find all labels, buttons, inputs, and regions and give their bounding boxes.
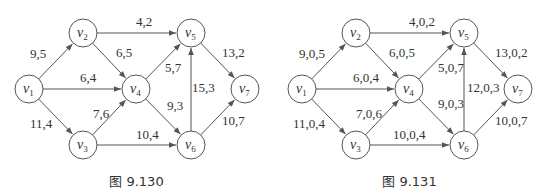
edge-label: 7,6 xyxy=(93,106,110,121)
edge-label: 13,0,2 xyxy=(495,45,528,60)
node-v1: v1 xyxy=(15,75,43,103)
edge-v1-v3: 11,0,4 xyxy=(293,99,346,134)
figure-9-131: 9,0,56,0,411,0,44,0,26,0,57,0,610,0,45,0… xyxy=(273,0,546,194)
edge-label: 5,7 xyxy=(165,60,182,75)
edge-label: 9,5 xyxy=(30,46,46,61)
graph-9-130: 9,56,411,44,26,57,610,45,79,315,313,210,… xyxy=(0,0,273,170)
edge-v1-v2: 9,5 xyxy=(30,44,73,79)
edge-label: 13,2 xyxy=(222,45,245,60)
edge-label: 7,0,6 xyxy=(356,106,383,121)
node-v6: v6 xyxy=(450,131,478,159)
node-v5: v5 xyxy=(177,19,205,47)
edge-v3-v6: 10,0,4 xyxy=(370,127,449,145)
edge-v4-v5: 5,7 xyxy=(146,44,182,79)
figure-9-130: 9,56,411,44,26,57,610,45,79,315,313,210,… xyxy=(0,0,273,194)
edge-label: 9,0,5 xyxy=(299,46,325,61)
node-v5: v5 xyxy=(450,19,478,47)
edge-label: 5,0,7 xyxy=(438,60,465,75)
edge-label: 10,4 xyxy=(136,127,159,142)
node-v4: v4 xyxy=(122,75,150,103)
graph-9-131: 9,0,56,0,411,0,44,0,26,0,57,0,610,0,45,0… xyxy=(273,0,546,170)
edge-label: 11,4 xyxy=(30,116,53,131)
node-v3: v3 xyxy=(342,131,370,159)
edge-v4-v6: 9,0,3 xyxy=(419,96,464,134)
node-v2: v2 xyxy=(69,19,97,47)
node-v6: v6 xyxy=(177,131,205,159)
figure-caption: 图 9.130 xyxy=(0,171,273,190)
edge-v3-v4: 7,6 xyxy=(93,100,126,135)
edge-label: 6,0,4 xyxy=(353,70,380,85)
node-v7: v7 xyxy=(504,75,532,103)
edge-label: 10,0,7 xyxy=(495,113,528,128)
edge-label: 4,2 xyxy=(136,14,152,29)
edge-label: 12,0,3 xyxy=(467,80,500,95)
edge-v2-v5: 4,2 xyxy=(97,14,176,33)
figure-caption: 图 9.131 xyxy=(273,171,546,190)
edge-v5-v7: 13,2 xyxy=(201,43,245,78)
edge-v2-v4: 6,5 xyxy=(93,43,133,78)
edge-v1-v4: 6,0,4 xyxy=(316,70,394,89)
edge-label: 15,3 xyxy=(192,80,215,95)
edge-v2-v5: 4,0,2 xyxy=(370,14,449,33)
edge-v6-v5: 15,3 xyxy=(191,48,215,131)
edge-v3-v6: 10,4 xyxy=(97,127,176,145)
edge-label: 11,0,4 xyxy=(293,116,326,131)
edge-v6-v7: 10,7 xyxy=(201,100,246,135)
edge-v4-v5: 5,0,7 xyxy=(419,44,465,79)
node-v2: v2 xyxy=(342,19,370,47)
edge-label: 10,0,4 xyxy=(393,127,426,142)
edge-v1-v3: 11,4 xyxy=(30,99,73,134)
edge-label: 6,4 xyxy=(80,70,97,85)
edge-v1-v2: 9,0,5 xyxy=(299,44,346,79)
edge-label: 6,5 xyxy=(116,45,132,60)
edge-v5-v7: 13,0,2 xyxy=(474,43,528,78)
edge-v6-v7: 10,0,7 xyxy=(474,100,528,135)
edge-label: 9,0,3 xyxy=(438,96,464,111)
edge-label: 9,3 xyxy=(167,98,183,113)
edge-label: 6,0,5 xyxy=(389,45,415,60)
edge-label: 10,7 xyxy=(222,113,245,128)
node-v7: v7 xyxy=(231,75,259,103)
node-v1: v1 xyxy=(288,75,316,103)
node-v3: v3 xyxy=(69,131,97,159)
node-v4: v4 xyxy=(395,75,423,103)
edge-label: 4,0,2 xyxy=(409,14,435,29)
edge-v1-v4: 6,4 xyxy=(43,70,121,89)
